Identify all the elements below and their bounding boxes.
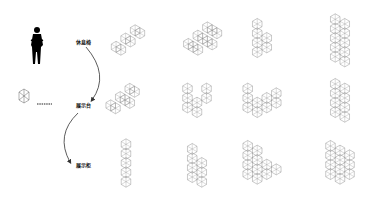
hex-cell (183, 102, 193, 113)
hex-cell (243, 102, 253, 113)
module-shape-r2-c2 (243, 140, 281, 184)
hex-cell (262, 169, 272, 180)
hex-cell (272, 164, 282, 175)
flow-arrow-2 (64, 113, 78, 162)
hex-cell (340, 111, 350, 122)
hex-cell (197, 176, 207, 187)
hex-cell (252, 47, 262, 58)
human-figure-icon (31, 27, 43, 64)
module-shape-r1-c1 (183, 83, 212, 117)
hex-cell (252, 173, 262, 184)
hex-cell (326, 169, 336, 180)
hex-cell (272, 97, 282, 108)
hex-cell (345, 169, 355, 180)
module-shape-r2-c1 (187, 143, 206, 187)
hex-cell (330, 107, 340, 118)
hex-cell (121, 176, 131, 187)
diagram-canvas (0, 0, 367, 202)
label-display-cabinet: 展示柜 (76, 161, 91, 168)
hex-cell (335, 173, 345, 184)
label-display-table: 展示台 (76, 101, 91, 108)
module-shape-r2-c0 (121, 139, 131, 187)
hex-cell (243, 169, 253, 180)
hex-cell (252, 107, 262, 118)
module-shape-r0-c0 (111, 25, 144, 55)
module-shape-r1-c0 (106, 83, 139, 113)
hex-cell (202, 93, 212, 104)
hex-cell (187, 172, 197, 183)
module-shape-r1-c3 (330, 78, 349, 122)
flow-arrow-1 (86, 47, 100, 100)
module-configurations (106, 14, 354, 187)
hexagonal-cell-icon (19, 89, 29, 103)
module-shape-r0-c2 (252, 18, 271, 57)
hex-cell (262, 42, 272, 53)
module-shape-r2-c3 (326, 140, 355, 184)
hex-cell (340, 56, 350, 67)
module-shape-r0-c1 (184, 22, 222, 55)
hex-cell (262, 102, 272, 113)
module-shape-r0-c3 (330, 14, 349, 67)
hex-cell (330, 51, 340, 62)
hex-cell (192, 107, 202, 118)
label-rest-chair: 休息椅 (76, 38, 91, 45)
module-shape-r1-c2 (243, 83, 281, 117)
